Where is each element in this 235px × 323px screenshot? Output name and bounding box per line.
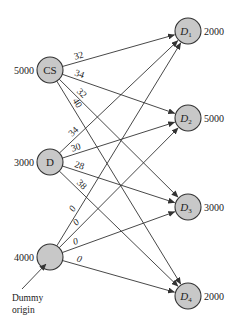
edge-d-d2 — [62, 122, 174, 158]
source-node-dummy: 4000 — [14, 244, 63, 270]
cost-labels: 32343240343028380000 — [67, 49, 89, 264]
dummy-origin-label-line2: origin — [12, 305, 35, 315]
cost-label: 28 — [73, 159, 85, 172]
dummy-origin-pointer-arrow — [22, 264, 46, 289]
source-label: CS — [43, 64, 56, 76]
cost-label: 32 — [73, 49, 85, 61]
destination-node-d2: D25000 — [175, 105, 224, 131]
destination-node-d1: D12000 — [175, 18, 224, 44]
destination-node-d4: D42000 — [175, 283, 224, 309]
source-node-d: D3000 — [14, 149, 63, 175]
cost-label: 30 — [70, 141, 82, 153]
cost-label: 0 — [67, 204, 78, 213]
demand-value: 3000 — [204, 202, 224, 213]
nodes: CS5000D30004000D12000D25000D33000D42000 — [14, 18, 224, 309]
cost-label: 0 — [72, 236, 80, 247]
dummy-origin-label-line1: Dummy — [12, 293, 43, 303]
supply-value: 3000 — [14, 157, 34, 168]
supply-value: 4000 — [14, 252, 34, 263]
cost-label: 0 — [76, 254, 84, 265]
cost-label: 38 — [75, 178, 89, 192]
destination-node-d3: D33000 — [175, 194, 224, 220]
demand-value: 2000 — [204, 291, 224, 302]
cost-label: 0 — [71, 217, 82, 228]
demand-value: 2000 — [204, 26, 224, 37]
supply-value: 5000 — [14, 65, 34, 76]
edge-cs-d4 — [57, 81, 181, 284]
cost-label: 34 — [67, 124, 81, 138]
edge-dummy-d4 — [63, 261, 175, 293]
source-label: D — [46, 156, 54, 168]
source-node-cs: CS5000 — [14, 57, 63, 83]
network-diagram: 32343240343028380000 CS5000D30004000D120… — [0, 0, 235, 323]
demand-value: 5000 — [204, 113, 224, 124]
